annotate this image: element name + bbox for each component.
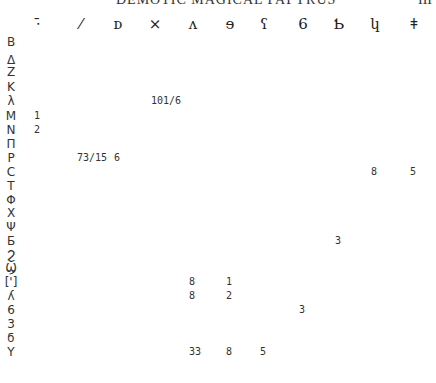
page-number: III [418,0,432,8]
row-header: K [2,80,20,94]
table-cell: 3 [299,304,305,316]
table-cell: 2 [34,124,40,136]
column-header-demotic-sign-1: ⋅̄ [23,14,53,34]
row-header: N [2,123,20,137]
row-header: C [2,165,20,179]
column-header-demotic-sign-3: ᴅ [103,14,133,34]
row-header: ʎ [2,289,20,303]
row-header: Ψ [2,220,20,234]
table-cell: 8 [226,346,232,358]
row-header: Π [2,137,20,151]
page-header-title: DEMOTIC MAGICAL PAPYRUS [116,0,336,8]
table-cell: 1 [34,110,40,122]
row-header: Y [2,345,20,359]
table-cell: 5 [260,346,266,358]
row-header: Φ [2,193,20,207]
table-cell: 8 [189,290,195,302]
column-header-demotic-sign-2: ⁄ [66,14,96,34]
column-header-demotic-sign-7: ʕ [249,14,279,34]
table-cell: 5 [410,166,416,178]
row-header: λ [2,94,20,108]
column-header-demotic-sign-9: Ƅ [324,14,354,34]
column-header-demotic-sign-8: 6 [288,14,318,34]
table-cell: 3 [335,235,341,247]
table-cell: 33 [189,346,201,358]
table-cell: 73/15 [77,152,107,164]
row-header: M [2,109,20,123]
row-header: 6 [2,303,20,317]
row-header: T [2,179,20,193]
table-cell: 2 [226,290,232,302]
row-header: Ϣ [2,261,20,275]
column-header-demotic-sign-4: × [140,14,170,34]
table-cell: 8 [189,276,195,288]
row-header: ϭ [2,331,20,345]
row-header: Z [2,65,20,79]
column-header-demotic-sign-10: կ [360,14,390,34]
table-cell: 8 [371,166,377,178]
row-header: 3 [2,317,20,331]
row-header: Ρ [2,151,20,165]
row-header: X [2,206,20,220]
column-header-demotic-sign-6: ɘ [215,14,245,34]
row-header: Ƃ [2,234,20,248]
table-cell: 6 [114,152,120,164]
table-cell: 101/6 [151,95,181,107]
column-header-demotic-sign-11: ǂ [399,14,429,34]
table-cell: 1 [226,276,232,288]
column-header-demotic-sign-5: ʌ [178,14,208,34]
row-header: B [2,35,20,49]
row-header: Ϩ [2,248,20,262]
row-header: ['] [2,275,20,289]
